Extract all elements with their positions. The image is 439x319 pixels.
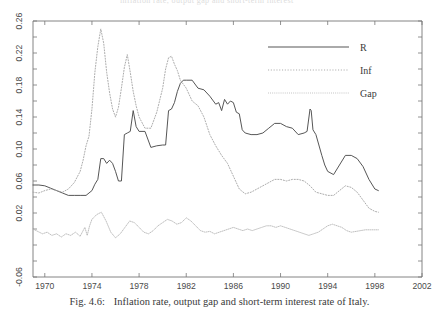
legend-label-r: R: [360, 42, 367, 53]
x-tick-label: 2002: [412, 281, 431, 291]
y-tick-label: 0.22: [14, 44, 24, 61]
y-tick-label: 0.26: [14, 12, 24, 29]
y-tick-label: -0.06: [14, 267, 24, 287]
y-tick-label: 0.14: [14, 108, 24, 125]
x-tick-label: 1986: [224, 281, 243, 291]
legend-label-gap: Gap: [360, 88, 377, 99]
y-tick-label: 0.18: [14, 76, 24, 93]
x-tick-label: 1994: [318, 281, 337, 291]
x-tick-label: 1998: [365, 281, 384, 291]
y-tick-label: 0.02: [14, 204, 24, 221]
plot-axes-frame: [33, 21, 422, 277]
legend-label-inf: Inf: [360, 65, 372, 76]
figure-caption: Fig. 4.6:Inflation rate, output gap and …: [0, 296, 439, 307]
x-tick-label: 1982: [177, 281, 196, 291]
caption-text: Inflation rate, output gap and short-ter…: [114, 296, 370, 307]
caption-number: Fig. 4.6:: [70, 296, 105, 307]
series-line-inf: [33, 29, 378, 212]
series-line-r: [33, 80, 378, 195]
y-tick-label: 0.06: [14, 172, 24, 189]
x-tick-label: 1990: [271, 281, 290, 291]
y-tick-label: 0.10: [14, 140, 24, 157]
series-line-gap: [33, 212, 378, 238]
x-tick-label: 1978: [130, 281, 149, 291]
chart-plot: -0.060.020.060.100.140.180.220.261970197…: [0, 0, 439, 295]
x-tick-label: 1970: [35, 281, 54, 291]
figure-container: inflation rate, output gap and short-ter…: [0, 0, 439, 319]
x-tick-label: 1974: [82, 281, 101, 291]
